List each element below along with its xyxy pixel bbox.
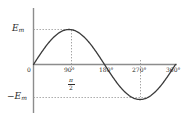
radian-fraction-pi-over-2: π 2	[64, 77, 78, 92]
y-label-positive-amplitude-subscript: m	[19, 26, 25, 33]
fraction-numerator: π	[64, 77, 78, 83]
x-tick-label-180: 180°	[99, 67, 113, 73]
plot-canvas	[0, 0, 183, 123]
y-label-positive-amplitude: Em	[12, 24, 24, 33]
y-label-negative-amplitude: −Em	[7, 92, 27, 101]
y-label-negative-amplitude-subscript: m	[21, 94, 27, 101]
x-tick-label-360: 360°	[166, 67, 180, 73]
x-tick-label-90: 90°	[64, 67, 75, 73]
y-label-negative-amplitude-text: −E	[7, 91, 21, 101]
x-tick-label-270: 270°	[132, 67, 146, 73]
origin-label: 0	[27, 67, 31, 73]
fraction-denominator: 2	[64, 85, 78, 91]
y-label-positive-amplitude-text: E	[12, 23, 19, 33]
sine-waveform-figure: Em −Em 0 90° 180° 270° 360° π 2	[0, 0, 183, 123]
